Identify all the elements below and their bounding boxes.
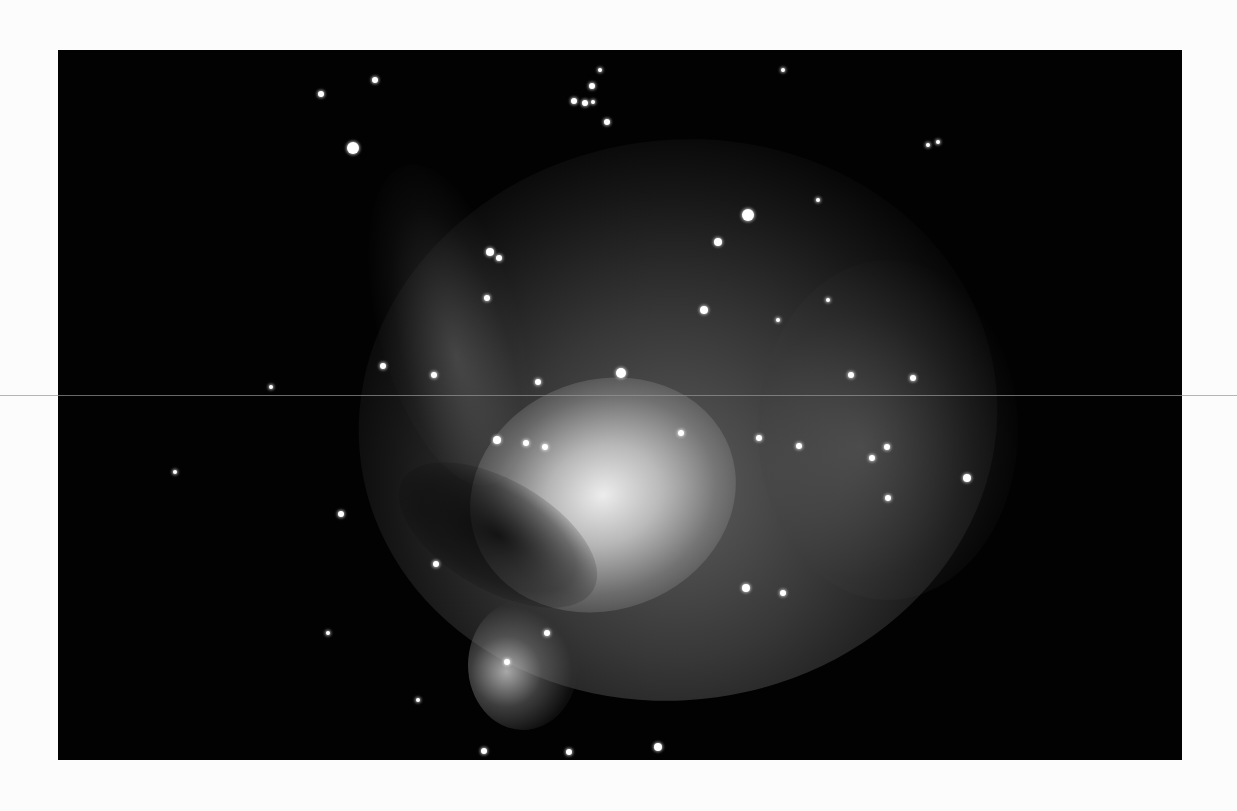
star — [318, 91, 324, 97]
star — [884, 444, 890, 450]
star — [433, 561, 439, 567]
star — [781, 68, 785, 72]
star — [416, 698, 420, 702]
star — [926, 143, 930, 147]
star — [885, 495, 891, 501]
star — [604, 119, 610, 125]
star — [431, 372, 437, 378]
star — [963, 474, 971, 482]
star — [936, 140, 940, 144]
star — [493, 436, 501, 444]
star — [481, 748, 487, 754]
scan-line-artifact — [0, 395, 1237, 396]
nebula-right-lobe — [758, 260, 1018, 600]
star — [544, 630, 550, 636]
star — [338, 511, 344, 517]
star — [780, 590, 786, 596]
star — [598, 68, 602, 72]
star — [796, 443, 802, 449]
star — [504, 659, 510, 665]
star — [742, 584, 750, 592]
star — [589, 83, 595, 89]
star — [571, 98, 577, 104]
star — [700, 306, 708, 314]
star — [654, 743, 662, 751]
star — [756, 435, 762, 441]
star — [582, 100, 588, 106]
nebula-photograph — [58, 50, 1182, 760]
star — [380, 363, 386, 369]
caption-bleed-through — [230, 762, 990, 774]
star — [484, 295, 490, 301]
star — [173, 470, 177, 474]
star — [910, 375, 916, 381]
star — [826, 298, 830, 302]
star — [486, 248, 494, 256]
nebula-m43-knot — [468, 600, 578, 730]
star — [372, 77, 378, 83]
star — [269, 385, 273, 389]
star — [776, 318, 780, 322]
star — [535, 379, 541, 385]
star — [542, 444, 548, 450]
star — [326, 631, 330, 635]
star — [742, 209, 754, 221]
star — [616, 368, 626, 378]
star — [869, 455, 875, 461]
star — [848, 372, 854, 378]
star — [347, 142, 359, 154]
star — [714, 238, 722, 246]
star — [678, 430, 684, 436]
star — [566, 749, 572, 755]
star — [591, 100, 595, 104]
star — [523, 440, 529, 446]
star — [816, 198, 820, 202]
star — [496, 255, 502, 261]
